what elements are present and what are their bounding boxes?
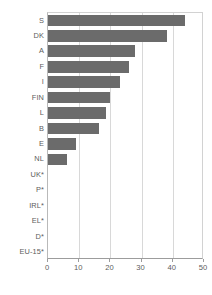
- tick-label: 0: [35, 263, 59, 272]
- category-label: EL*: [0, 216, 44, 225]
- category-label: IRL*: [0, 201, 44, 210]
- tick-mark: [78, 259, 79, 262]
- bar-row: [48, 137, 204, 152]
- tick-mark: [109, 259, 110, 262]
- bar-row: [48, 44, 204, 59]
- bar-series: [48, 13, 202, 258]
- category-label: NL: [0, 154, 44, 163]
- bar-row: [48, 28, 204, 43]
- bar: [48, 138, 76, 150]
- bar-row: [48, 214, 204, 229]
- bar-row: [48, 75, 204, 90]
- category-label: I: [0, 77, 44, 86]
- category-label: EU-15*: [0, 247, 44, 256]
- value-axis: 01020304050: [0, 259, 212, 279]
- bar: [48, 123, 99, 135]
- bar: [48, 92, 110, 104]
- category-label: UK*: [0, 170, 44, 179]
- bar-row: [48, 90, 204, 105]
- category-axis-labels: SDKAFIFINLBENLUK*P*IRL*EL*D*EU-15*: [0, 12, 44, 259]
- tick-mark: [47, 259, 48, 262]
- bar-row: [48, 229, 204, 244]
- bar: [48, 154, 67, 166]
- tick-label: 40: [160, 263, 184, 272]
- bar: [48, 61, 129, 73]
- bar: [48, 107, 106, 119]
- bar: [48, 45, 135, 57]
- tick-label: 10: [66, 263, 90, 272]
- category-label: DK: [0, 31, 44, 40]
- tick-mark: [172, 259, 173, 262]
- bar-row: [48, 245, 204, 260]
- tick-mark: [141, 259, 142, 262]
- category-label: P*: [0, 185, 44, 194]
- category-label: F: [0, 62, 44, 71]
- bar-row: [48, 167, 204, 182]
- tick-label: 30: [129, 263, 153, 272]
- bar-chart: SDKAFIFINLBENLUK*P*IRL*EL*D*EU-15* 01020…: [0, 0, 212, 295]
- category-label: E: [0, 139, 44, 148]
- category-label: S: [0, 16, 44, 25]
- bar-row: [48, 198, 204, 213]
- category-label: FIN: [0, 93, 44, 102]
- tick-mark: [203, 259, 204, 262]
- bar-row: [48, 121, 204, 136]
- bar: [48, 76, 120, 88]
- bar-row: [48, 152, 204, 167]
- bar: [48, 30, 167, 42]
- tick-label: 50: [191, 263, 212, 272]
- bar: [48, 15, 185, 27]
- bar-row: [48, 13, 204, 28]
- bar-row: [48, 59, 204, 74]
- category-label: D*: [0, 232, 44, 241]
- bar-row: [48, 106, 204, 121]
- plot-area: [47, 12, 203, 259]
- category-label: L: [0, 108, 44, 117]
- category-label: A: [0, 46, 44, 55]
- tick-label: 20: [97, 263, 121, 272]
- bar-row: [48, 183, 204, 198]
- category-label: B: [0, 124, 44, 133]
